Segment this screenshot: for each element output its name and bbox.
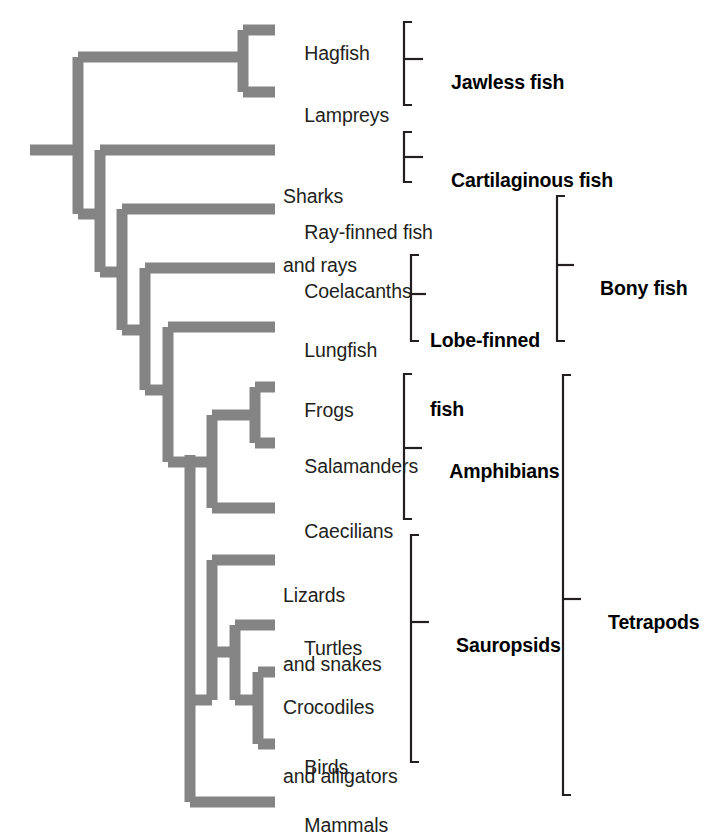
bracket-bony-fish [557,196,565,341]
clade-text-jawless-fish: Jawless fish [451,71,564,93]
tip-text-crocodiles: Crocodiles [283,696,398,719]
tip-text-salamanders: Salamanders [304,455,418,477]
clade-label-cartilaginous-fish: Cartilaginous fish [430,146,613,215]
clade-label-tetrapods: Tetrapods [587,588,700,657]
bracket-tetrapods [563,375,571,795]
clade-text-tetrapods: Tetrapods [608,611,699,633]
tip-label-mammals: Mammals [283,791,388,833]
clade-label-amphibians: Amphibians [429,437,559,506]
tip-text-lizards: Lizards [283,584,382,607]
tip-text-hagfish: Hagfish [304,42,369,64]
clade-text-lobe-finned: Lobe-finned [430,329,540,352]
clade-label-bony-fish: Bony fish [579,254,688,323]
clade-label-sauropsids: Sauropsids [435,611,561,680]
clade-label-jawless-fish: Jawless fish [430,48,564,117]
tip-text-coelacanths: Coelacanths [304,280,411,302]
tip-label-lungfish: Lungfish [283,316,377,385]
tip-text-lungfish: Lungfish [304,339,377,361]
bracket-sauropsids [411,535,419,762]
bracket-lobe-finned-fish [411,255,419,341]
tip-text-ray-finned-fish: Ray-finned fish [304,221,433,243]
tip-label-salamanders: Salamanders [283,432,418,501]
tip-label-hagfish: Hagfish [283,19,370,88]
clade-text-cartilaginous-fish: Cartilaginous fish [451,169,613,191]
clade-text-lobe-finned-line2: fish [430,398,540,421]
tip-text-frogs: Frogs [304,399,353,421]
clade-text-bony-fish: Bony fish [600,277,688,299]
tip-text-mammals: Mammals [304,814,388,833]
tip-text-lampreys: Lampreys [304,104,389,126]
clade-text-amphibians: Amphibians [449,460,559,482]
tip-text-birds: Birds [304,756,348,778]
bracket-jawless-fish [404,22,412,105]
clade-text-sauropsids: Sauropsids [456,634,561,656]
cladogram-figure: Hagfish Lampreys Sharks and rays Ray-fin… [0,0,705,833]
